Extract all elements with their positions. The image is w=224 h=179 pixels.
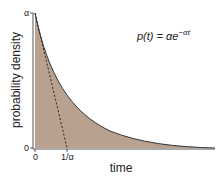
exponential-density-chart: α 0 0 1/α probability density time p(t) …: [0, 0, 224, 179]
y-tick-label-zero: 0: [24, 143, 29, 153]
x-axis-title: time: [110, 161, 133, 175]
formula-annotation: p(t) = αe−αt: [136, 28, 191, 42]
x-tick-label-zero: 0: [33, 152, 38, 162]
y-tick-label-alpha: α: [24, 8, 29, 18]
x-tick-label-inv-alpha: 1/α: [61, 152, 74, 162]
y-axis-title: probability density: [9, 32, 23, 128]
